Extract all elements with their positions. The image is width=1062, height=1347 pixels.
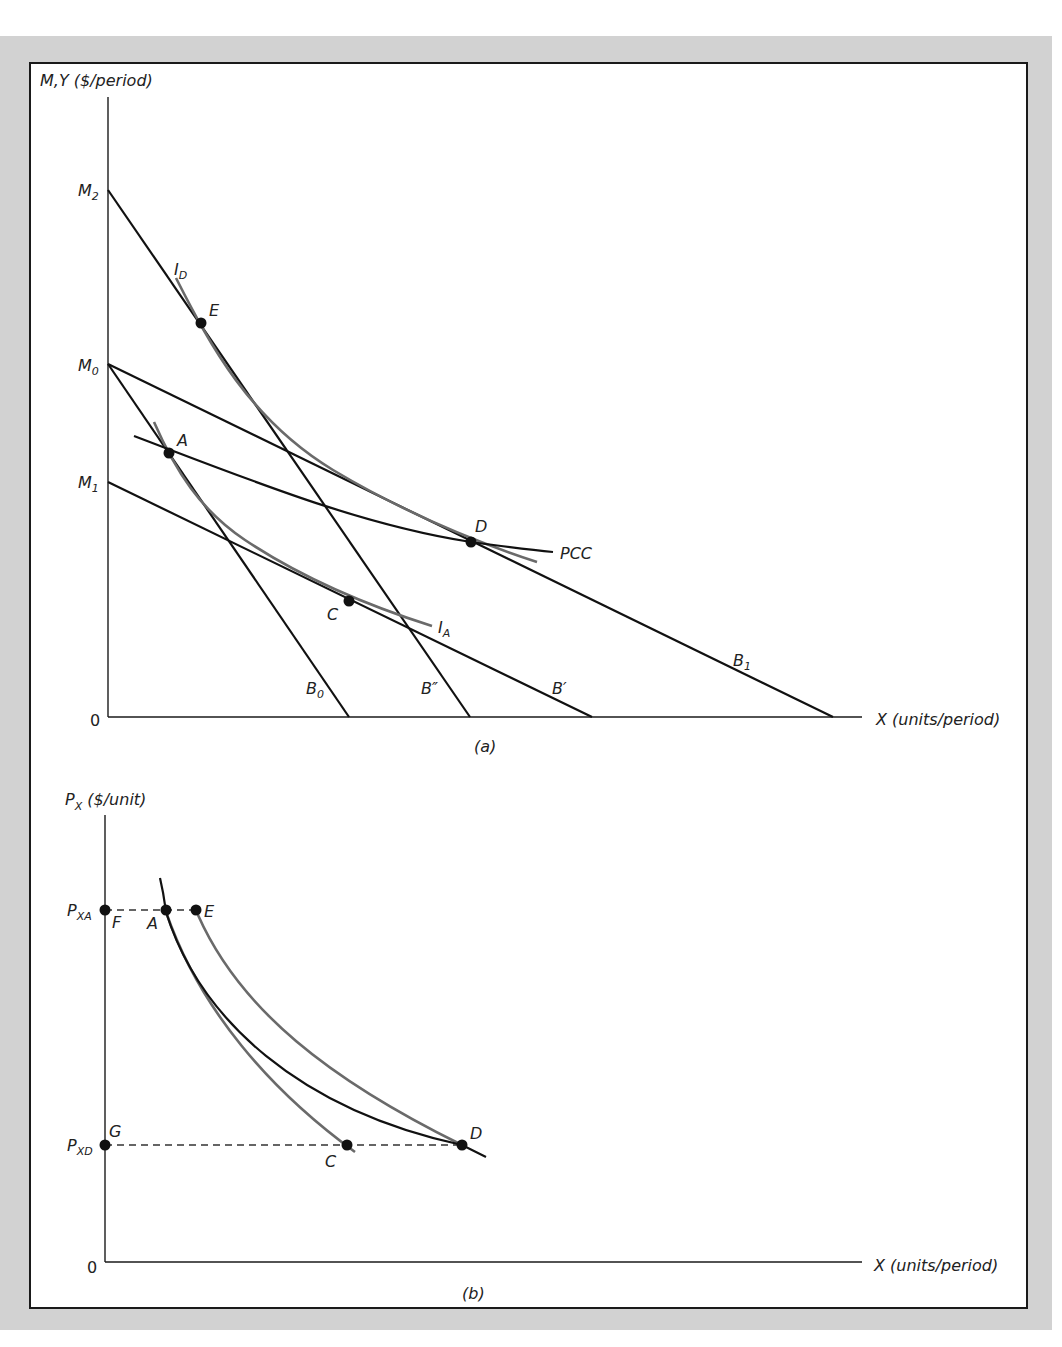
label-PXD: PXD — [67, 1136, 93, 1158]
point-E — [196, 318, 207, 329]
label-B1: B1 — [733, 651, 751, 673]
label-point-E: E — [209, 301, 220, 320]
label-point-A: A — [176, 431, 188, 450]
panel-b-x-axis-label: X (units/period) — [873, 1256, 998, 1275]
point-G — [100, 1140, 111, 1151]
label-M2: M2 — [78, 181, 99, 203]
label-point-F: F — [112, 913, 122, 932]
point-E-b — [191, 905, 202, 916]
point-A-b — [161, 905, 172, 916]
label-ID: ID — [174, 260, 187, 282]
label-IA: IA — [438, 618, 450, 640]
point-C — [344, 596, 355, 607]
point-D — [466, 537, 477, 548]
label-B0: B0 — [306, 679, 324, 701]
panel-a-x-axis-label: X (units/period) — [875, 710, 1000, 729]
label-B-prime: B′ — [552, 679, 567, 698]
panel-a-y-axis-label: M,Y ($/period) — [40, 71, 153, 90]
panel-a-caption: (a) — [474, 737, 496, 756]
label-B-double-prime: B″ — [421, 679, 438, 698]
panel-b-caption: (b) — [462, 1284, 485, 1303]
panel-b-origin-label: 0 — [87, 1258, 97, 1277]
label-PCC: PCC — [560, 544, 593, 563]
compensated-demand-curve-IA — [166, 912, 355, 1152]
point-F — [100, 905, 111, 916]
label-point-D: D — [475, 517, 487, 536]
label-point-E-b: E — [204, 902, 215, 921]
figure-svg: M,Y ($/period) X (units/period) 0 (a) M2… — [0, 0, 1062, 1347]
budget-line-B-double-prime — [108, 190, 470, 717]
label-point-D-b: D — [470, 1124, 482, 1143]
point-D-b — [457, 1140, 468, 1151]
label-point-C-b: C — [325, 1152, 337, 1171]
point-A — [164, 448, 175, 459]
panel-a: M,Y ($/period) X (units/period) 0 (a) M2… — [40, 71, 1000, 756]
label-point-A-b: A — [146, 914, 158, 933]
label-PXA: PXA — [67, 901, 92, 923]
point-C-b — [342, 1140, 353, 1151]
label-M1: M1 — [78, 473, 99, 495]
panel-a-origin-label: 0 — [90, 711, 100, 730]
label-point-C: C — [327, 605, 339, 624]
label-M0: M0 — [78, 356, 99, 378]
panel-b: PX ($/unit) X (units/period) 0 (b) PXA P… — [65, 790, 998, 1303]
panel-b-y-axis-label: PX ($/unit) — [65, 790, 146, 813]
label-point-G: G — [109, 1122, 121, 1141]
